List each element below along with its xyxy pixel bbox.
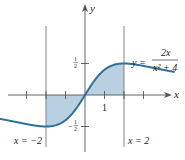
y-tick-half-num: 1 [74,56,77,62]
label-x-2: x = 2 [127,135,149,146]
x-tick-label-1: 1 [102,102,107,113]
x-axis-label: x [173,88,179,100]
y-tick-neg-half-num: 1 [74,119,77,125]
label-x-neg2: x = −2 [13,135,42,146]
function-graph: y x 1 2 − 1 2 1 y = 2x x² + 4 x = −2 x =… [0,0,185,160]
y-tick-half-den: 2 [74,63,77,69]
y-tick-neg-half-den: 2 [74,126,77,132]
equation-numerator: 2x [161,47,171,58]
equation-denominator: x² + 4 [152,62,177,73]
y-axis-label: y [89,2,95,14]
equation-lhs: y = [131,57,146,68]
y-tick-neg-sign: − [68,122,73,131]
